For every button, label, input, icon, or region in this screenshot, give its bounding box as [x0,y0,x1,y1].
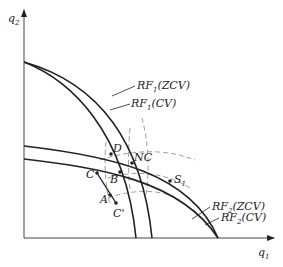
point-nc-label: NC [133,151,153,164]
rf1-cv-label: RF1(CV) [130,97,176,112]
point-a-label: A [99,193,108,206]
rf2-cv-label: RF2(CV) [220,211,266,226]
reaction-function-diagram: q2 q1 RF1(ZCV) RF1(CV) RF2(ZCV) RF2(CV) [0,0,283,267]
rf1-zcv-label: RF1(ZCV) [136,79,190,94]
x-axis-label: q1 [258,246,270,261]
point-d-label: D [112,142,122,155]
rf2-zcv-curve [24,146,218,238]
point-s1-label: S1 [174,173,186,188]
y-axis-label: q2 [8,12,20,27]
point-b-label: B [109,173,118,186]
point-cprime-label: C' [113,207,124,220]
point-c-label: C [86,168,95,181]
